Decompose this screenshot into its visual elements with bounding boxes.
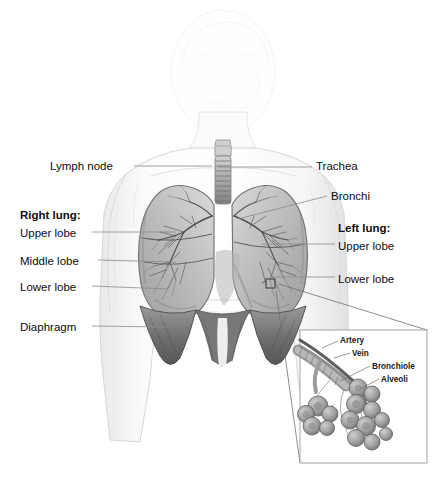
label-trachea: Trachea <box>316 160 358 173</box>
label-lower-lobe-l: Lower lobe <box>338 273 394 286</box>
label-diaphragm: Diaphragm <box>20 321 76 334</box>
left-lung <box>232 185 308 319</box>
label-alveoli: Alveoli <box>381 375 408 384</box>
right-lung <box>139 185 215 319</box>
label-lymph-node: Lymph node <box>50 160 113 173</box>
diaphragm <box>140 306 306 366</box>
label-vein: Vein <box>352 349 369 358</box>
label-artery: Artery <box>340 336 364 345</box>
label-upper-lobe-r: Upper lobe <box>20 227 76 240</box>
label-left-lung: Left lung: <box>338 222 390 235</box>
label-middle-lobe: Middle lobe <box>20 255 79 268</box>
label-bronchiole: Bronchiole <box>372 362 415 371</box>
label-upper-lobe-l: Upper lobe <box>338 240 394 253</box>
label-right-lung: Right lung: <box>20 209 81 222</box>
label-lower-lobe-r: Lower lobe <box>20 281 76 294</box>
figure-canvas: Lymph nodeRight lung:Upper lobeMiddle lo… <box>0 0 447 490</box>
trachea <box>215 140 232 204</box>
label-bronchi: Bronchi <box>331 190 370 203</box>
